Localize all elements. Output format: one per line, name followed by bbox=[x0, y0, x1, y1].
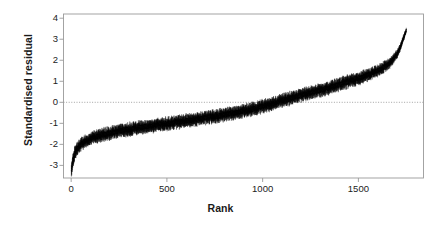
x-axis-label: Rank bbox=[0, 202, 441, 214]
y-tick-label: -1 bbox=[38, 118, 58, 128]
y-tick-label: -3 bbox=[38, 160, 58, 170]
y-tick-label: 1 bbox=[38, 76, 58, 86]
plot-frame bbox=[64, 14, 424, 178]
plot-area bbox=[0, 0, 441, 228]
x-tick-label: 0 bbox=[69, 184, 74, 194]
x-tick-label: 1500 bbox=[348, 184, 369, 194]
y-tick-label: 0 bbox=[38, 97, 58, 107]
y-tick-label: 3 bbox=[38, 34, 58, 44]
y-tick-label: -2 bbox=[38, 139, 58, 149]
y-tick-label: 4 bbox=[38, 13, 58, 23]
x-tick-label: 1000 bbox=[252, 184, 273, 194]
y-tick-label: 2 bbox=[38, 55, 58, 65]
standardised-residual-rank-chart: Standardised residual Rank -3-2-101234 0… bbox=[0, 0, 441, 228]
x-tick-label: 500 bbox=[159, 184, 175, 194]
y-axis-label: Standardised residual bbox=[22, 5, 34, 175]
